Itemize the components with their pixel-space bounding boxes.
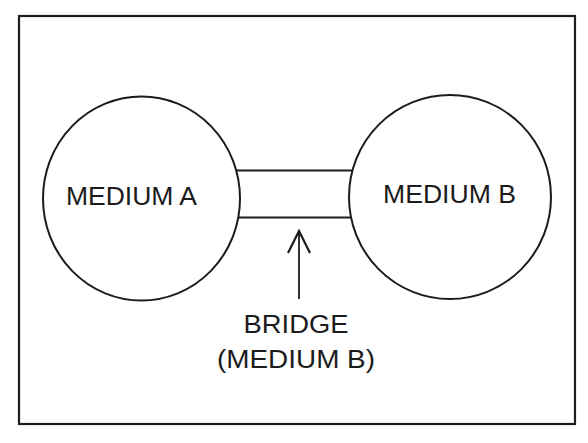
- diagram-canvas: MEDIUM A MEDIUM B BRIDGE (MEDIUM B): [0, 0, 588, 443]
- bridge-label: BRIDGE: [244, 310, 349, 338]
- bridge-connector: [236, 171, 354, 218]
- arrow-up-icon: [288, 231, 310, 299]
- medium-a-label: MEDIUM A: [66, 182, 197, 210]
- medium-b-label: MEDIUM B: [383, 180, 516, 208]
- bridge-sublabel: (MEDIUM B): [217, 345, 375, 373]
